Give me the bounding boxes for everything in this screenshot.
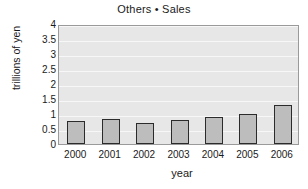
x-axis-title: year: [58, 167, 306, 179]
y-tick-label: 3: [30, 50, 56, 60]
bar: [67, 121, 85, 144]
chart-title: Others • Sales: [0, 3, 308, 15]
y-tick-label: 1: [30, 110, 56, 120]
y-tick-label: 2.5: [30, 65, 56, 75]
x-tick-label: 2005: [230, 149, 264, 160]
bar: [171, 120, 189, 144]
y-tick-label: 1.5: [30, 95, 56, 105]
plot-area: [58, 25, 299, 145]
gridline: [59, 101, 298, 102]
bar: [205, 117, 223, 145]
bar: [136, 123, 154, 144]
y-tick-label: 4: [30, 20, 56, 30]
x-tick-label: 2002: [127, 149, 161, 160]
bar: [239, 114, 257, 145]
y-axis-title: trillions of yen: [10, 0, 22, 118]
y-tick-label: 3.5: [30, 35, 56, 45]
gridline: [59, 26, 298, 27]
y-tick-label: 0.5: [30, 125, 56, 135]
gridline: [59, 56, 298, 57]
x-tick-label: 2006: [265, 149, 299, 160]
gridline: [59, 71, 298, 72]
bar: [102, 119, 120, 144]
x-tick-label: 2003: [162, 149, 196, 160]
gridline: [59, 116, 298, 117]
gridline: [59, 41, 298, 42]
x-tick-label: 2004: [196, 149, 230, 160]
gridline: [59, 86, 298, 87]
x-tick-label: 2001: [93, 149, 127, 160]
y-tick-label: 0: [30, 140, 56, 150]
bar: [274, 105, 292, 144]
x-tick-label: 2000: [58, 149, 92, 160]
y-tick-label: 2: [30, 80, 56, 90]
bar-chart: Others • Sales trillions of yen 43.532.5…: [0, 0, 308, 189]
